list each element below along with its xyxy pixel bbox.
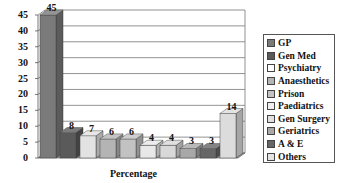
bar-value-label: 6 [122,127,142,137]
bar-value-label: 8 [62,121,82,131]
y-tick-label: 40 [2,26,28,36]
legend-swatch [267,64,275,72]
bar-value-label: 3 [202,136,222,146]
legend-label: Geriatrics [278,126,319,136]
y-tick-label: 10 [2,121,28,131]
legend-item: Paediatrics [267,100,334,113]
legend-swatch [267,127,275,135]
legend-item: Geriatrics [267,125,334,138]
legend-item: GP [267,37,334,50]
bar-gp [40,10,63,158]
bar-value-label: 45 [42,3,62,13]
legend-swatch [267,90,275,98]
y-tick-label: 35 [2,42,28,52]
legend: GPGen MedPsychiatryAnaestheticsPrisonPae… [263,34,335,163]
bar-value-label: 14 [222,102,242,112]
legend-swatch [267,140,275,148]
legend-swatch [267,39,275,47]
y-tick-label: 30 [2,58,28,68]
legend-swatch [267,102,275,110]
bar-value-label: 4 [162,133,182,143]
bar-others [220,109,243,158]
legend-label: Others [278,152,306,162]
bar-psychiatry [80,131,103,158]
legend-label: Anaesthetics [278,76,329,86]
bar-gen-med [60,128,83,158]
y-tick-label: 0 [2,153,28,163]
bar-prison [120,134,143,158]
y-tick-label: 15 [2,105,28,115]
legend-label: Paediatrics [278,101,323,111]
legend-label: Gen Surgery [278,114,330,124]
legend-label: GP [278,38,291,48]
bar-value-label: 3 [182,136,202,146]
legend-item: Prison [267,87,334,100]
y-tick-label: 45 [2,10,28,20]
legend-swatch [267,52,275,60]
legend-swatch [267,153,275,161]
legend-item: Gen Med [267,50,334,63]
y-tick-label: 25 [2,74,28,84]
legend-label: Psychiatry [278,63,321,73]
legend-swatch [267,115,275,123]
bar-chart: 051015202530354045 458766443314 Percenta… [0,0,348,183]
x-axis-label: Percentage [110,168,157,179]
bar-value-label: 6 [102,127,122,137]
legend-item: Psychiatry [267,62,334,75]
legend-label: A & E [278,139,303,149]
legend-label: Gen Med [278,51,316,61]
legend-label: Prison [278,89,304,99]
legend-item: Others [267,150,334,163]
legend-item: Gen Surgery [267,113,334,126]
bar-anaesthetics [100,134,123,158]
bar-value-label: 7 [82,124,102,134]
y-tick-label: 20 [2,89,28,99]
legend-swatch [267,77,275,85]
bar-value-label: 4 [142,133,162,143]
legend-item: A & E [267,138,334,151]
legend-item: Anaesthetics [267,75,334,88]
y-tick-label: 5 [2,137,28,147]
